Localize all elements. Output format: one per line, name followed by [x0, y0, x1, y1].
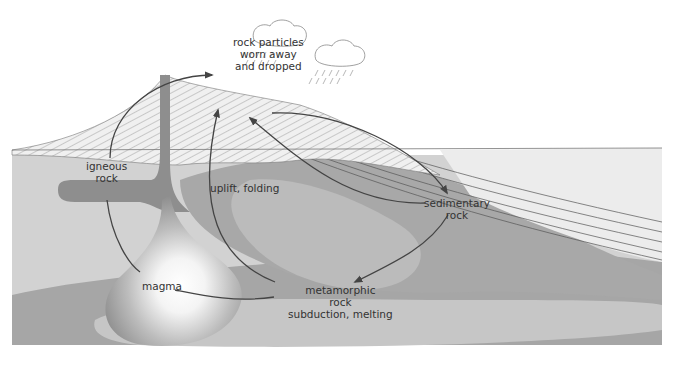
label-rock-particles: rock particles worn away and dropped [233, 36, 304, 72]
label-sedimentary-rock: sedimentary rock [424, 197, 490, 221]
label-metamorphic-rock: metamorphic rock subduction, melting [288, 284, 393, 320]
rock-cycle-diagram: rock particles worn away and dropped ign… [0, 0, 682, 375]
label-uplift-folding: uplift, folding [210, 182, 279, 194]
label-magma: magma [142, 280, 182, 292]
label-igneous-rock: igneous rock [86, 160, 127, 184]
